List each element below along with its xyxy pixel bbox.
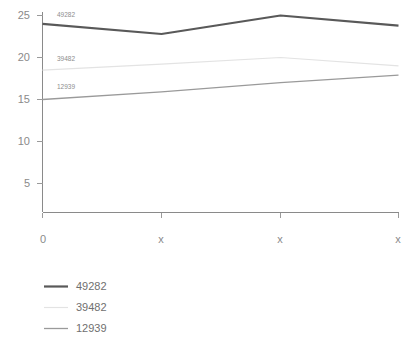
legend-label-1: 39482 bbox=[76, 301, 107, 313]
legend-item-0[interactable]: 49282 bbox=[44, 280, 107, 292]
x-tick-label: 0 bbox=[40, 233, 46, 245]
chart-legend: 49282 39482 12939 bbox=[44, 280, 107, 334]
inline-label-series-1: 39482 bbox=[57, 55, 75, 62]
inline-label-series-0: 49282 bbox=[57, 11, 75, 18]
y-tick-label: 25 bbox=[18, 9, 30, 21]
legend-label-0: 49282 bbox=[76, 280, 107, 292]
series-line-1 bbox=[43, 58, 399, 71]
inline-series-labels: 49282 39482 12939 bbox=[57, 11, 75, 90]
x-axis-ticks bbox=[43, 213, 399, 219]
y-tick-label: 5 bbox=[24, 177, 30, 189]
series-layer bbox=[43, 16, 399, 100]
legend-item-1[interactable]: 39482 bbox=[44, 301, 107, 313]
series-line-2 bbox=[43, 75, 399, 99]
y-axis-labels: 25 20 15 10 5 bbox=[18, 9, 30, 189]
inline-label-series-2: 12939 bbox=[57, 83, 75, 90]
x-tick-label: x bbox=[277, 233, 283, 245]
y-tick-label: 10 bbox=[18, 135, 30, 147]
chart-canvas: 25 20 15 10 5 0 x x x 49282 bbox=[0, 0, 407, 344]
legend-item-2[interactable]: 12939 bbox=[44, 322, 107, 334]
series-line-0 bbox=[43, 16, 399, 34]
line-chart: 25 20 15 10 5 0 x x x 49282 bbox=[0, 0, 407, 344]
y-axis-ticks bbox=[37, 16, 43, 184]
x-tick-label: x bbox=[158, 233, 164, 245]
y-tick-label: 20 bbox=[18, 51, 30, 63]
legend-label-2: 12939 bbox=[76, 322, 107, 334]
x-tick-label: x bbox=[395, 233, 401, 245]
x-axis-labels: 0 x x x bbox=[40, 233, 401, 245]
y-tick-label: 15 bbox=[18, 93, 30, 105]
